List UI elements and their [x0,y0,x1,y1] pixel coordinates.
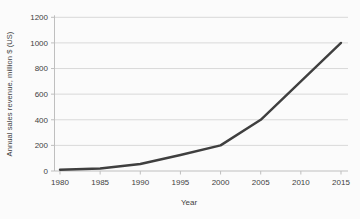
y-tick-label-600: 600 [35,90,49,99]
y-axis-title: Annual sales revenue, million $ (US) [5,32,14,157]
plot-area: 0200400600800100012001980198519901995200… [0,0,360,219]
x-tick-label-2005: 2005 [252,178,270,187]
line-chart-figure: 0200400600800100012001980198519901995200… [0,0,360,219]
x-tick-label-2000: 2000 [212,178,230,187]
y-tick-label-200: 200 [35,141,49,150]
y-tick-label-400: 400 [35,116,49,125]
y-tick-label-1200: 1200 [30,13,48,22]
x-axis-title: Year [181,198,197,207]
x-tick-label-2010: 2010 [292,178,310,187]
x-tick-label-1995: 1995 [172,178,190,187]
y-tick-label-800: 800 [35,64,49,73]
x-tick-label-1985: 1985 [91,178,109,187]
x-tick-label-1980: 1980 [51,178,69,187]
x-tick-label-1990: 1990 [131,178,149,187]
x-tick-label-2015: 2015 [332,178,350,187]
y-tick-label-1000: 1000 [30,39,48,48]
series-line-annual-sales-revenue [60,43,341,170]
y-tick-label-0: 0 [44,167,49,176]
